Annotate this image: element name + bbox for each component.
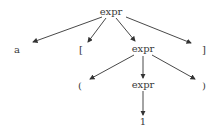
node-expr-root: expr — [100, 6, 123, 18]
edge-expr-rparen — [152, 55, 195, 79]
edge-expr-lparen — [90, 55, 134, 79]
node-expr-child: expr — [132, 43, 155, 55]
node-lbracket: [ — [79, 44, 83, 56]
node-rbracket: ] — [202, 44, 206, 56]
node-a: a — [14, 44, 20, 56]
edge-expr-expr — [116, 18, 135, 41]
node-rparen: ) — [202, 80, 206, 92]
node-lparen: ( — [78, 80, 82, 92]
tree-edges — [0, 0, 221, 136]
node-one: 1 — [140, 116, 146, 128]
edge-expr-lbracket — [88, 18, 106, 42]
edge-expr-rbracket — [126, 17, 191, 43]
edge-expr-a — [33, 17, 102, 42]
node-expr-grandchild: expr — [132, 79, 155, 91]
